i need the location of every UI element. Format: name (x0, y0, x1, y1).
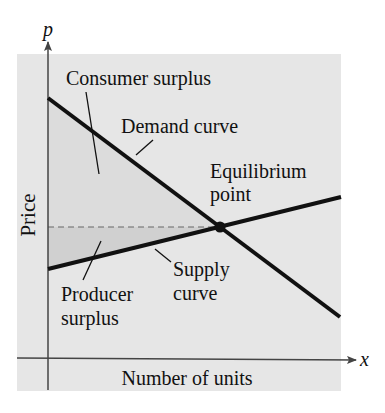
consumer-surplus-label: Consumer surplus (66, 67, 211, 90)
equilibrium-point (215, 222, 226, 233)
demand-curve-label: Demand curve (121, 115, 238, 137)
supply-demand-diagram: p x Price Number of units Consumer surpl… (0, 0, 385, 413)
x-axis-title: Number of units (121, 367, 252, 389)
producer-label-line1: Producer (61, 283, 134, 305)
producer-label-line2: surplus (61, 307, 119, 330)
x-axis-var-label: x (359, 348, 369, 370)
equilibrium-label-line1: Equilibrium (210, 160, 307, 183)
y-axis-title: Price (16, 193, 40, 236)
equilibrium-label-line2: point (210, 183, 252, 206)
y-axis-var-label: p (41, 18, 53, 41)
supply-label-line2: curve (173, 282, 218, 304)
supply-label-line1: Supply (173, 258, 230, 281)
